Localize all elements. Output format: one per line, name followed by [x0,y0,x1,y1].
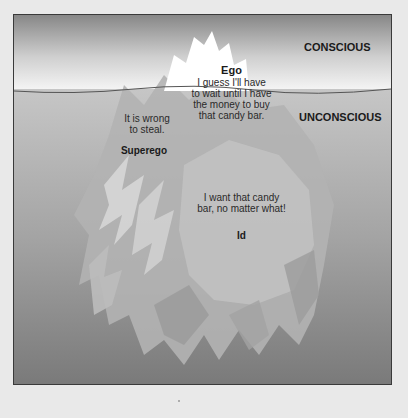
ego-quote-line: the money to buy [184,99,279,110]
ego-title: Ego [184,65,279,76]
superego-quote: It is wrong to steal. [117,113,177,135]
id-quote: I want that candy bar, no matter what! [194,192,289,214]
superego-quote-line: to steal. [117,124,177,135]
superego-quote-line: It is wrong [117,113,177,124]
conscious-label: CONSCIOUS [304,41,371,53]
superego-title: Superego [114,145,174,156]
unconscious-label: UNCONSCIOUS [299,111,382,123]
id-title: Id [194,230,289,241]
ego-quote-line: that candy bar. [184,110,279,121]
ego-block: Ego I guess I'll have to wait until I ha… [184,65,279,121]
iceberg-diagram: CONSCIOUS UNCONSCIOUS Ego I guess I'll h… [13,14,392,385]
id-quote-line: I want that candy [194,192,289,203]
id-quote-line: bar, no matter what! [194,203,289,214]
ego-quote-line: to wait until I have [184,88,279,99]
stray-mark [178,400,180,402]
ego-quote-line: I guess I'll have [184,77,279,88]
